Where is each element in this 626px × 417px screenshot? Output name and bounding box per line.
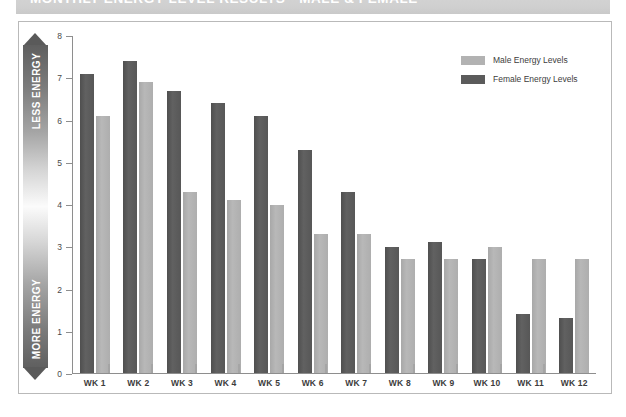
bar-male-wk-10[interactable] — [488, 247, 502, 373]
x-axis-line — [72, 373, 596, 374]
bar-female-wk-5[interactable] — [254, 116, 268, 373]
bar-male-wk-8[interactable] — [401, 259, 415, 373]
page-title: MONTHLY ENERGY LEVEL RESULTS - MALE & FE… — [30, 0, 418, 6]
x-label-wk-12: WK 12 — [552, 378, 596, 388]
x-label-wk-6: WK 6 — [291, 378, 335, 388]
bar-male-wk-9[interactable] — [444, 259, 458, 373]
bar-female-wk-8[interactable] — [385, 247, 399, 373]
bar-male-wk-11[interactable] — [532, 259, 546, 373]
y-tick-label-5: 5 — [57, 158, 62, 168]
bar-female-wk-9[interactable] — [428, 242, 442, 373]
y-tick-1: 1 — [66, 332, 72, 333]
x-label-wk-3: WK 3 — [160, 378, 204, 388]
bar-group-wk-8 — [378, 36, 422, 373]
y-tick-3: 3 — [66, 247, 72, 248]
legend-item-male[interactable]: Male Energy Levels — [461, 55, 578, 65]
x-label-wk-11: WK 11 — [509, 378, 553, 388]
bar-female-wk-11[interactable] — [516, 314, 530, 373]
y-tick-label-2: 2 — [57, 285, 62, 295]
x-label-wk-4: WK 4 — [204, 378, 248, 388]
bar-group-wk-2 — [117, 36, 161, 373]
legend-swatch-male — [461, 56, 485, 65]
y-tick-label-8: 8 — [57, 31, 62, 41]
bar-male-wk-4[interactable] — [227, 200, 241, 373]
bar-group-wk-12 — [552, 36, 596, 373]
bar-group-wk-9 — [422, 36, 466, 373]
arrow-down-icon — [23, 367, 47, 380]
bar-male-wk-3[interactable] — [183, 192, 197, 373]
energy-scale-arrow: LESS ENERGY MORE ENERGY — [23, 33, 48, 380]
bar-group-wk-5 — [247, 36, 291, 373]
x-label-wk-5: WK 5 — [247, 378, 291, 388]
y-tick-label-0: 0 — [57, 369, 62, 379]
y-tick-2: 2 — [66, 290, 72, 291]
y-tick-4: 4 — [66, 205, 72, 206]
bar-female-wk-3[interactable] — [167, 91, 181, 373]
y-tick-label-1: 1 — [57, 327, 62, 337]
y-tick-label-3: 3 — [57, 242, 62, 252]
bar-group-wk-10 — [465, 36, 509, 373]
y-tick-label-7: 7 — [57, 73, 62, 83]
y-tick-label-4: 4 — [57, 200, 62, 210]
x-label-wk-2: WK 2 — [117, 378, 161, 388]
y-tick-label-6: 6 — [57, 116, 62, 126]
bar-group-wk-6 — [291, 36, 335, 373]
bar-female-wk-12[interactable] — [559, 318, 573, 373]
x-label-wk-8: WK 8 — [378, 378, 422, 388]
bar-group-wk-11 — [509, 36, 553, 373]
bar-female-wk-2[interactable] — [123, 61, 137, 373]
bar-female-wk-10[interactable] — [472, 259, 486, 373]
bar-groups — [73, 36, 596, 373]
legend-label-male: Male Energy Levels — [493, 55, 568, 65]
bar-female-wk-1[interactable] — [80, 74, 94, 373]
more-energy-label: MORE ENERGY — [30, 279, 41, 360]
bar-group-wk-4 — [204, 36, 248, 373]
bar-group-wk-1 — [73, 36, 117, 373]
x-label-wk-1: WK 1 — [73, 378, 117, 388]
x-label-wk-10: WK 10 — [465, 378, 509, 388]
y-tick-7: 7 — [66, 78, 72, 79]
bar-male-wk-1[interactable] — [96, 116, 110, 373]
legend-item-female[interactable]: Female Energy Levels — [461, 74, 578, 84]
chart-legend: Male Energy LevelsFemale Energy Levels — [461, 55, 578, 84]
less-energy-label: LESS ENERGY — [30, 53, 41, 130]
bar-male-wk-7[interactable] — [357, 234, 371, 373]
bar-male-wk-2[interactable] — [139, 82, 153, 373]
bar-male-wk-5[interactable] — [270, 205, 284, 374]
plot-area: 012345678 — [72, 36, 596, 374]
x-label-wk-7: WK 7 — [334, 378, 378, 388]
bar-group-wk-3 — [160, 36, 204, 373]
title-banner: MONTHLY ENERGY LEVEL RESULTS - MALE & FE… — [16, 0, 610, 14]
bar-group-wk-7 — [334, 36, 378, 373]
y-tick-6: 6 — [66, 121, 72, 122]
x-label-wk-9: WK 9 — [422, 378, 466, 388]
bar-male-wk-12[interactable] — [575, 259, 589, 373]
y-tick-0: 0 — [66, 374, 72, 375]
legend-swatch-female — [461, 75, 485, 84]
bar-female-wk-6[interactable] — [298, 150, 312, 373]
bar-female-wk-7[interactable] — [341, 192, 355, 373]
x-axis-labels: WK 1WK 2WK 3WK 4WK 5WK 6WK 7WK 8WK 9WK 1… — [73, 378, 596, 388]
bar-male-wk-6[interactable] — [314, 234, 328, 373]
y-tick-5: 5 — [66, 163, 72, 164]
y-tick-8: 8 — [66, 36, 72, 37]
bar-female-wk-4[interactable] — [211, 103, 225, 373]
legend-label-female: Female Energy Levels — [493, 74, 578, 84]
